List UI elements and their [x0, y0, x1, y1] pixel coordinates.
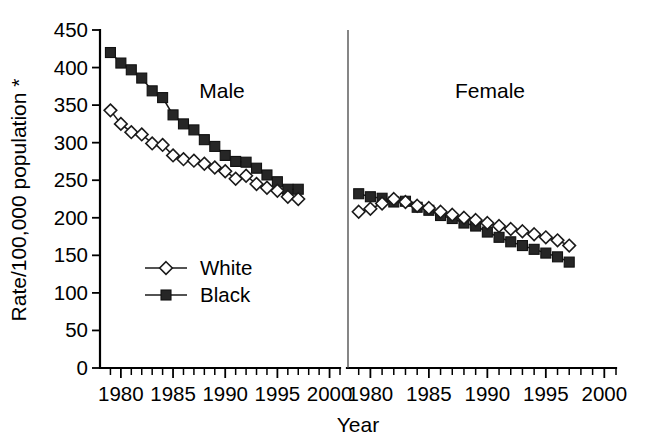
chart-figure: 050100150200250300350400450Rate/100,000 …	[0, 0, 651, 446]
x-axis-title: Year	[337, 413, 379, 436]
x-axis-tick-label: 2000	[581, 382, 627, 405]
y-axis-tick-label: 400	[54, 56, 88, 79]
data-point-white	[104, 104, 117, 117]
data-point-black	[210, 141, 220, 151]
data-point-black	[564, 257, 574, 267]
y-axis-title: Rate/100,000 population *	[7, 79, 30, 322]
y-axis-tick-label: 250	[54, 168, 88, 191]
data-point-white	[540, 231, 553, 244]
data-point-black	[517, 241, 527, 251]
data-point-black	[506, 237, 516, 247]
data-point-black	[158, 93, 168, 103]
data-point-black	[494, 232, 504, 242]
y-axis-tick-label: 300	[54, 131, 88, 154]
data-point-white	[563, 239, 576, 252]
y-axis-tick-label: 0	[77, 356, 88, 379]
data-point-black	[116, 58, 126, 68]
legend-label-black: Black	[200, 283, 251, 306]
data-point-black	[220, 150, 230, 160]
data-point-white	[160, 262, 173, 275]
y-axis-tick-label: 150	[54, 243, 88, 266]
chart-plot-area: 050100150200250300350400450Rate/100,000 …	[0, 0, 651, 446]
data-point-black	[105, 48, 115, 58]
data-point-black	[178, 119, 188, 129]
data-point-black	[354, 189, 364, 199]
x-axis-tick-label: 1985	[150, 382, 196, 405]
data-point-black	[241, 157, 251, 167]
data-point-black	[231, 156, 241, 166]
data-point-black	[529, 244, 539, 254]
x-axis-tick-label: 1990	[202, 382, 248, 405]
y-axis-tick-label: 50	[65, 318, 88, 341]
data-point-black	[541, 248, 551, 258]
data-point-black	[199, 135, 209, 145]
data-point-white	[551, 234, 564, 247]
data-point-black	[126, 65, 136, 75]
panel-label-male: Male	[199, 79, 245, 102]
legend-label-white: White	[200, 256, 252, 279]
y-axis-tick-label: 350	[54, 93, 88, 116]
data-point-white	[504, 223, 517, 236]
x-axis-tick-label: 2000	[307, 382, 353, 405]
panel-label-female: Female	[455, 79, 525, 102]
y-axis-tick-label: 200	[54, 206, 88, 229]
data-point-black	[553, 252, 563, 262]
x-axis-tick-label: 1990	[465, 382, 511, 405]
data-point-black	[147, 86, 157, 96]
data-point-white	[528, 228, 541, 241]
data-point-black	[252, 163, 262, 173]
data-point-black	[189, 125, 199, 135]
data-point-black	[161, 290, 171, 300]
data-point-black	[262, 170, 272, 180]
data-point-white	[352, 205, 365, 218]
data-point-black	[365, 192, 375, 202]
x-axis-tick-label: 1980	[98, 382, 144, 405]
data-point-black	[137, 73, 147, 83]
y-axis-tick-label: 450	[54, 18, 88, 41]
data-point-white	[516, 225, 529, 238]
data-point-white	[493, 220, 506, 233]
x-axis-tick-label: 1995	[523, 382, 569, 405]
x-axis-tick-label: 1980	[348, 382, 394, 405]
y-axis-tick-label: 100	[54, 281, 88, 304]
x-axis-tick-label: 1985	[406, 382, 452, 405]
x-axis-tick-label: 1995	[255, 382, 301, 405]
data-point-white	[364, 202, 377, 215]
data-point-black	[168, 110, 178, 120]
